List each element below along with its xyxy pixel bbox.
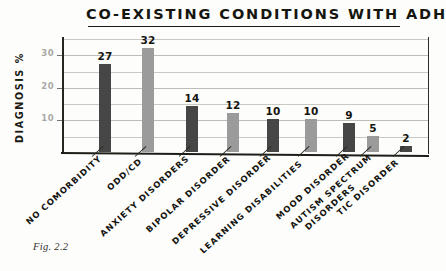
category-label: ODD/CD: [105, 156, 144, 193]
figure-panel: CO-EXISTING CONDITIONS WITH ADHD DIAGNOS…: [0, 0, 446, 271]
figure-caption: Fig. 2.2: [33, 241, 68, 252]
category-labels: NO COMORBIDITYODD/CDANXIETY DISORDERSBIP…: [0, 0, 446, 271]
category-label: NO COMORBIDITY: [24, 153, 104, 227]
category-label-line: DISORDERS: [303, 159, 382, 231]
category-leader-line: [393, 146, 405, 157]
category-label-line: ODD/CD: [105, 156, 144, 193]
category-leader-line: [298, 146, 310, 157]
category-label-line: NO COMORBIDITY: [24, 153, 104, 227]
